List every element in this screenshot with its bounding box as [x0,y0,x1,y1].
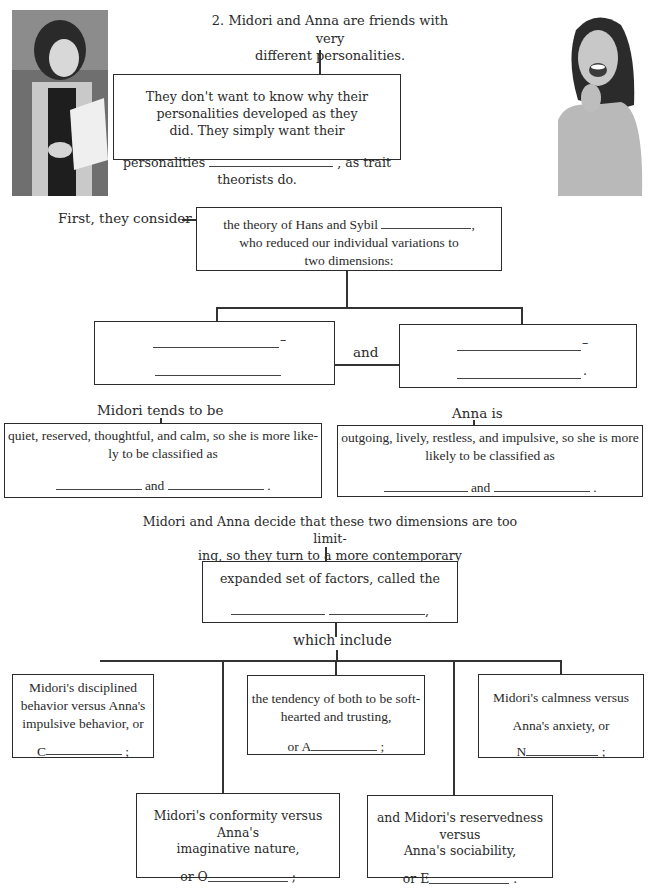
connector [216,307,218,322]
trait-theory-box: They don't want to know why their person… [113,74,401,160]
text: or O [180,870,207,885]
text: ; [292,870,296,885]
box-line: or E . [368,870,552,888]
blank-midori-2[interactable] [168,475,264,490]
intro-line: 2. Midori and Anna are friends with very [200,12,460,47]
text: or E [403,872,429,887]
dimension-right-box: – . [399,324,637,388]
dimension-left-box: – [94,321,335,385]
box-line: , [203,601,457,619]
anna-classification-box: outgoing, lively, restless, and impulsiv… [337,425,643,497]
text: and [471,480,491,495]
box-line: did. They simply want their [114,122,400,139]
midori-label: Midori tends to be [97,402,223,418]
anna-label: Anna is [452,405,503,421]
text: ; [381,739,385,754]
text: . [593,480,596,495]
text: the theory of Hans and Sybil [223,217,378,232]
factor-box-agreeableness: the tendency of both to be soft- hearted… [247,675,425,755]
box-line: ly to be classified as [5,445,321,463]
blank-eysenck[interactable] [381,214,471,229]
text: . [583,363,587,380]
box-line: the theory of Hans and Sybil , [197,214,501,234]
text: , [425,603,429,618]
decide-text: Midori and Anna decide that these two di… [130,513,530,564]
box-line: likely to be classified as [338,447,642,465]
box-line: N ; [479,741,643,761]
connector [100,660,560,662]
connector [319,50,321,74]
photo-anna [546,10,646,196]
connector [222,660,224,800]
blank-extraversion[interactable] [429,870,509,883]
blank-personalities[interactable] [209,153,333,167]
box-line: Midori's disciplined [13,679,153,697]
connector [335,660,337,676]
text: ; [125,743,129,758]
box-line: personalities , as trait theorists do. [114,153,400,188]
blank-neuroticism[interactable] [526,741,598,756]
and-label: and [353,344,378,360]
box-line: and . [5,475,321,495]
intro-text: 2. Midori and Anna are friends with very… [200,12,460,65]
text: ; [602,744,606,759]
box-line: Midori's conformity versus Anna's [137,808,339,841]
blank-anna-1[interactable] [384,477,468,492]
blank-conscientiousness[interactable] [46,741,122,756]
text: , [471,217,474,232]
text: . [513,872,517,887]
blank-dimension-right-2[interactable] [457,365,581,379]
box-line: hearted and trusting, [248,708,424,726]
blank-dimension-right-1[interactable] [457,337,581,351]
blank-agreeableness[interactable] [311,736,377,751]
factor-box-extraversion: and Midori's reservedness versus Anna's … [367,795,553,878]
text-line: Midori and Anna decide that these two di… [130,513,530,547]
box-line: who reduced our individual variations to [197,234,501,252]
box-line: Anna's sociability, [368,843,552,860]
connector [325,547,327,561]
box-line: or A ; [248,736,424,756]
box-line: the tendency of both to be soft- [248,690,424,708]
intro-line: different personalities. [200,47,460,65]
box-line: impulsive behavior, or [13,715,153,733]
box-line: and . [338,477,642,497]
connector [453,660,455,802]
connector [216,307,522,309]
which-include-label: which include [293,632,392,648]
text: or A [288,739,312,754]
text: and [145,478,165,493]
text: C [37,743,46,758]
text: – [280,332,286,349]
blank-midori-1[interactable] [56,475,142,490]
box-line: They don't want to know why their person… [114,88,400,122]
text: N [517,744,527,759]
blank-big-five-1[interactable] [231,601,325,615]
first-label: First, they consider [58,210,192,226]
box-line: Midori's calmness versus [479,689,643,707]
box-line: two dimensions: [197,252,501,270]
blank-anna-2[interactable] [494,477,590,492]
connector [334,364,400,366]
eysenck-theory-box: the theory of Hans and Sybil , who reduc… [196,207,502,271]
box-line: imaginative nature, [137,841,339,858]
box-line: Anna's anxiety, or [479,717,643,735]
box-line: quiet, reserved, thoughtful, and calm, s… [5,427,321,445]
blank-dimension-left-2[interactable] [155,362,281,376]
factor-box-neuroticism: Midori's calmness versus Anna's anxiety,… [478,674,644,758]
midori-classification-box: quiet, reserved, thoughtful, and calm, s… [4,423,322,498]
factor-box-conscientiousness: Midori's disciplined behavior versus Ann… [12,674,154,758]
connector [346,271,348,308]
box-line: behavior versus Anna's [13,697,153,715]
text: – [582,335,588,352]
box-line: or O ; [137,868,339,886]
blank-dimension-left-1[interactable] [153,334,279,348]
text: personalities [123,155,205,170]
connector [521,307,523,324]
text: . [267,478,270,493]
big-five-box: expanded set of factors, called the , [202,561,458,623]
photo-midori [12,10,108,196]
box-line: expanded set of factors, called the [203,570,457,587]
blank-big-five-2[interactable] [329,601,425,615]
blank-openness[interactable] [208,868,288,881]
connector [182,219,196,221]
